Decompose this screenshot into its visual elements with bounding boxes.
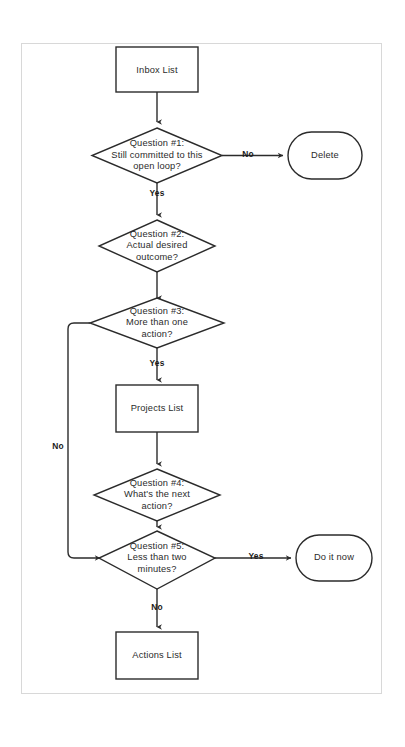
question-3-line2: More than one [126, 317, 188, 327]
edge-label-q1-yes: Yes [149, 188, 164, 198]
do-it-now-label: Do it now [314, 552, 354, 562]
question-4-line3: action? [141, 501, 172, 511]
question-5-line1: Question #5: [130, 541, 185, 551]
edge-label-q3-no: No [52, 441, 64, 451]
node-actions-list[interactable]: Actions List [116, 632, 198, 679]
node-do-it-now[interactable]: Do it now [296, 535, 372, 581]
question-1-line1: Question #1: [130, 138, 185, 148]
question-4-line1: Question #4: [130, 478, 185, 488]
node-delete[interactable]: Delete [288, 132, 362, 179]
flowchart-svg: Inbox List Question #1: Still committed … [0, 0, 405, 747]
question-2-line1: Question #2: [130, 229, 185, 239]
actions-list-label: Actions List [132, 650, 182, 660]
question-3-line1: Question #3: [130, 306, 185, 316]
question-1-line2: Still committed to this [111, 150, 202, 160]
question-4-line2: What's the next [124, 489, 190, 499]
edge-label-q5-yes: Yes [248, 551, 263, 561]
edge-label-q5-no: No [151, 602, 163, 612]
node-projects-list[interactable]: Projects List [116, 385, 198, 432]
node-inbox-list[interactable]: Inbox List [116, 47, 198, 92]
question-2-line2: Actual desired [126, 240, 187, 250]
inbox-list-label: Inbox List [136, 65, 178, 75]
question-5-line3: minutes? [138, 564, 177, 574]
question-5-line2: Less than two [127, 552, 186, 562]
question-1-line3: open loop? [133, 161, 181, 171]
question-2-line3: outcome? [136, 252, 178, 262]
edge-label-q1-no: No [242, 149, 254, 159]
edge-label-q3-yes: Yes [149, 358, 164, 368]
question-3-line3: action? [141, 329, 172, 339]
projects-list-label: Projects List [131, 403, 184, 413]
flowchart-canvas: Inbox List Question #1: Still committed … [0, 0, 405, 747]
delete-label: Delete [311, 150, 339, 160]
